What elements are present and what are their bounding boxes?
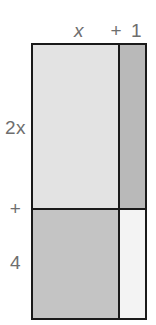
area-region-top-right <box>120 45 145 208</box>
row-label-two-x: 2x <box>2 118 29 137</box>
area-region-bottom-left <box>33 210 118 318</box>
column-label-x: x <box>66 21 92 40</box>
area-region-bottom-right <box>120 210 145 318</box>
area-model-grid <box>31 43 147 320</box>
row-label-plus: + <box>2 199 29 218</box>
column-label-plus-one: + 1 <box>104 21 150 40</box>
area-model-figure: x + 1 2x + 4 <box>0 0 156 325</box>
horizontal-divider-line <box>33 208 145 210</box>
area-region-top-left <box>33 45 118 208</box>
vertical-divider-line <box>118 45 120 318</box>
row-label-four: 4 <box>2 253 29 272</box>
